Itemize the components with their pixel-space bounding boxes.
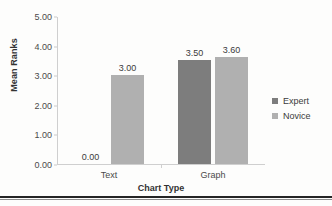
y-axis-tick-mark xyxy=(54,105,57,106)
bar-value-label: 3.00 xyxy=(119,63,137,73)
y-axis-tick-label: 4.00 xyxy=(34,42,52,52)
bar-novice-text[interactable] xyxy=(111,75,144,164)
legend-swatch-icon xyxy=(272,98,278,104)
y-axis-line xyxy=(57,17,58,165)
bar-chart-figure: Mean Ranks 0.001.002.003.004.005.00 0.00… xyxy=(0,0,332,206)
legend-label: Novice xyxy=(283,111,311,121)
y-axis-tick-label: 3.00 xyxy=(34,71,52,81)
legend-label: Expert xyxy=(283,96,309,106)
y-axis-tick-mark xyxy=(54,165,57,166)
legend-item-novice[interactable]: Novice xyxy=(272,108,311,123)
page-bottom-rule xyxy=(0,196,332,198)
y-axis-title: Mean Ranks xyxy=(9,29,19,101)
legend-swatch-icon xyxy=(272,113,278,119)
plot-area: 0.001.002.003.004.005.00 0.003.003.503.6… xyxy=(57,17,265,165)
y-axis-tick-label: 1.00 xyxy=(34,130,52,140)
category-label-graph: Graph xyxy=(200,170,225,180)
y-axis-tick-mark xyxy=(54,135,57,136)
y-axis-tick-label: 2.00 xyxy=(34,101,52,111)
page-bottom-rule-secondary xyxy=(0,199,332,200)
y-axis-tick-mark xyxy=(54,76,57,77)
bar-novice-graph[interactable] xyxy=(215,57,248,164)
legend-item-expert[interactable]: Expert xyxy=(272,93,311,108)
bar-value-label: 0.00 xyxy=(82,152,100,162)
chart-legend: ExpertNovice xyxy=(272,93,311,123)
bar-expert-graph[interactable] xyxy=(178,60,211,164)
bar-value-label: 3.50 xyxy=(186,48,204,58)
y-axis-tick-mark xyxy=(54,17,57,18)
x-axis-title: Chart Type xyxy=(57,183,265,193)
y-axis-tick-label: 0.00 xyxy=(34,160,52,170)
category-separator-tick xyxy=(161,164,162,168)
bar-value-label: 3.60 xyxy=(223,45,241,55)
y-axis-tick-label: 5.00 xyxy=(34,12,52,22)
category-label-text: Text xyxy=(101,170,118,180)
y-axis-tick-mark xyxy=(54,46,57,47)
